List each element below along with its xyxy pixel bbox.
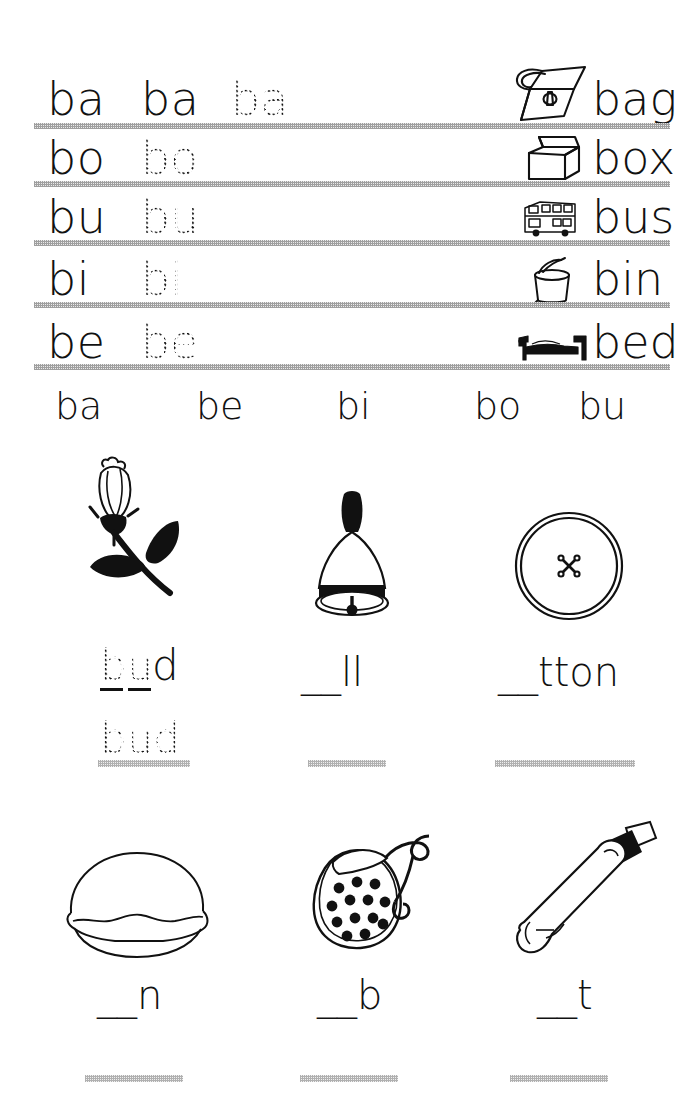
bud-prefix-trace[interactable]: bu (100, 645, 153, 687)
bus-icon (520, 198, 582, 240)
rule-line-1 (34, 123, 670, 129)
bun-word-blank: __n (97, 975, 162, 1015)
syllable-bu: bu (578, 387, 626, 425)
trace-row-1-model: ba (47, 76, 105, 122)
trace-row-4-model: bi (47, 256, 90, 302)
trace-row-1-trace[interactable]: ba (231, 76, 288, 122)
rose-bud-icon (70, 455, 220, 635)
bun-icon (63, 845, 213, 963)
bed-icon (516, 334, 588, 362)
trace-row-1-copy: ba (141, 76, 199, 122)
syllable-ba: ba (55, 387, 102, 425)
write-line-bat (510, 1075, 608, 1082)
rule-line-2 (34, 181, 670, 187)
bib-word-blank: __b (317, 975, 382, 1015)
bud-full-trace[interactable]: bud (100, 718, 180, 760)
bib-icon (295, 820, 445, 965)
cricket-bat-icon (500, 818, 660, 958)
trace-row-4-word: bin (592, 256, 663, 302)
write-line-bud (98, 760, 190, 767)
rule-line-5 (34, 364, 670, 370)
trace-row-3-model: bu (47, 194, 106, 240)
write-line-button (495, 760, 635, 767)
button-word-blank: __tton (498, 652, 619, 692)
bud-underscore-2 (128, 688, 151, 691)
bat-word-blank: __t (537, 975, 593, 1015)
write-line-bib (300, 1075, 398, 1082)
write-line-bun (85, 1075, 183, 1082)
trace-row-2-model: bo (47, 135, 105, 181)
trace-row-2-word: box (592, 135, 675, 181)
worksheet-page: ba ba ba bag bo bo (0, 0, 679, 1096)
syllable-bi: bi (336, 387, 371, 425)
trace-row-5-trace[interactable]: be (141, 319, 199, 365)
button-icon (513, 510, 625, 622)
hand-bell-icon (311, 490, 393, 630)
bell-word-blank: __ll (301, 652, 363, 692)
syllable-be: be (196, 387, 244, 425)
rule-line-4 (34, 302, 670, 308)
trace-row-2-trace[interactable]: bo (141, 135, 198, 181)
write-line-bell (308, 760, 386, 767)
rule-line-3 (34, 240, 670, 246)
syllable-bo: bo (474, 387, 521, 425)
bin-icon (527, 255, 583, 305)
bud-suffix: d (152, 645, 179, 687)
box-icon (517, 135, 587, 183)
trace-row-5-model: be (47, 319, 106, 365)
trace-row-3-trace[interactable]: bu (141, 194, 199, 240)
handbag-icon (512, 58, 590, 124)
trace-row-5-word: bed (592, 319, 679, 365)
bud-underscore-1 (100, 688, 123, 691)
trace-row-4-trace[interactable]: bi (141, 256, 183, 302)
trace-row-1-word: bag (592, 76, 677, 122)
trace-row-3-word: bus (592, 194, 674, 240)
